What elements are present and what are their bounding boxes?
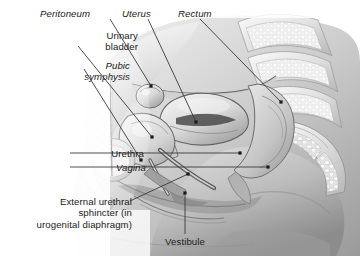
anatomy-figure: PeritoneumUterusRectumUrinarybladderPubi…	[0, 0, 360, 256]
leader-pubic-symphysis	[84, 69, 141, 160]
leader-dot-uterus	[194, 120, 197, 123]
leader-dot-pubic-symphysis	[139, 158, 142, 161]
leader-dot-urinary-bladder	[150, 135, 153, 138]
leader-external-urethral-sphincter	[130, 174, 188, 201]
leader-dot-rectum	[279, 100, 282, 103]
leader-urinary-bladder	[78, 46, 152, 137]
leader-uterus	[148, 19, 196, 122]
leader-peritoneum	[110, 19, 151, 86]
leader-dot-peritoneum	[149, 84, 152, 87]
leader-dot-vagina	[266, 165, 269, 168]
leader-lines	[0, 0, 360, 256]
leader-dot-urethra	[238, 151, 241, 154]
leader-dot-vestibule	[183, 191, 186, 194]
leader-rectum	[200, 19, 281, 102]
leader-dot-external-urethral-sphincter	[186, 172, 189, 175]
